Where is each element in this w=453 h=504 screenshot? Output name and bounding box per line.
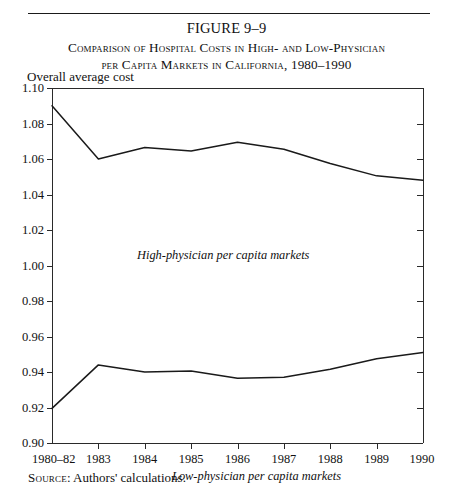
series-label-high-physician: High-physician per capita markets <box>137 248 309 263</box>
figure-number: FIGURE 9–9 <box>0 20 453 37</box>
source-note: Source: Authors' calculations. <box>28 470 186 486</box>
source-text: : Authors' calculations. <box>67 470 186 485</box>
y-axis-tick-right <box>417 443 423 444</box>
plot-area: 0.900.920.940.960.981.001.021.041.061.08… <box>52 88 423 443</box>
x-axis-label: 1983 <box>86 452 111 467</box>
line-series-low <box>52 352 423 408</box>
line-series-high <box>52 106 423 181</box>
y-axis-label: 0.90 <box>22 436 44 451</box>
x-axis-tick <box>330 443 331 449</box>
y-axis-label: 0.94 <box>22 365 44 380</box>
x-axis-label: 1988 <box>318 452 343 467</box>
x-axis-label: 1985 <box>179 452 204 467</box>
x-axis-tick <box>145 443 146 449</box>
x-axis-label: 1990 <box>410 452 435 467</box>
series-label-low-physician: Low-physician per capita markets <box>172 469 341 484</box>
y-axis-label: 1.02 <box>22 223 44 238</box>
x-axis-label: 1980–82 <box>32 452 75 467</box>
y-axis-label: 1.00 <box>22 258 44 273</box>
x-axis-tick <box>191 443 192 449</box>
y-axis-label: 1.08 <box>22 116 44 131</box>
y-axis-label: 0.92 <box>22 400 44 415</box>
y-axis-label: 1.06 <box>22 152 44 167</box>
figure-title-line-1: Comparison of Hospital Costs in High- an… <box>16 39 437 56</box>
y-axis-tick <box>47 443 53 444</box>
y-axis-label: 1.10 <box>22 81 44 96</box>
x-axis-tick <box>98 443 99 449</box>
y-axis-label: 0.96 <box>22 329 44 344</box>
x-axis-tick <box>284 443 285 449</box>
source-label: Source <box>28 470 67 485</box>
x-axis-label: 1989 <box>364 452 389 467</box>
figure-container: FIGURE 9–9 Comparison of Hospital Costs … <box>0 0 453 504</box>
axis-right <box>423 88 424 443</box>
x-axis-label: 1984 <box>132 452 157 467</box>
top-horizontal-rule <box>28 13 430 14</box>
series-lines <box>52 88 423 443</box>
x-axis-label: 1986 <box>225 452 250 467</box>
x-axis-tick <box>377 443 378 449</box>
y-axis-label: 1.04 <box>22 187 44 202</box>
x-axis-label: 1987 <box>271 452 296 467</box>
y-axis-label: 0.98 <box>22 294 44 309</box>
x-axis-tick <box>238 443 239 449</box>
